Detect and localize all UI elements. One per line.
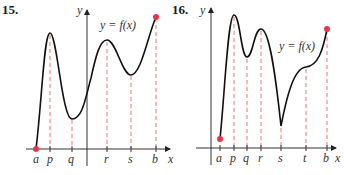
tick-label-t: t — [303, 151, 307, 165]
endpoint-b — [324, 26, 330, 32]
figure-number: 16. — [172, 2, 188, 17]
function-label: y = f(x) — [278, 39, 315, 53]
tick-label-q: q — [68, 152, 74, 166]
function-curve — [220, 15, 327, 139]
tick-label-a: a — [33, 152, 39, 166]
y-axis-label: y — [199, 3, 206, 17]
tick-label-b: b — [323, 151, 329, 165]
tick-label-p: p — [46, 152, 53, 166]
figure-15: 15. y y = f(x) a p q r — [2, 2, 174, 166]
function-curve — [36, 17, 156, 149]
figure-number: 15. — [2, 2, 18, 17]
function-label: y = f(x) — [99, 18, 136, 32]
tick-label-r: r — [258, 151, 263, 165]
tick-label-a: a — [216, 151, 222, 165]
x-axis-label: x — [167, 152, 174, 166]
tick-label-s: s — [128, 152, 133, 166]
tick-label-s: s — [278, 151, 283, 165]
y-axis-label: y — [76, 3, 83, 17]
endpoint-b — [153, 14, 159, 20]
tick-label-b: b — [152, 152, 158, 166]
tick-label-q: q — [243, 151, 249, 165]
tick-label-p: p — [229, 151, 236, 165]
tick-label-r: r — [104, 152, 109, 166]
figure-16: 16. y y = f(x) — [172, 2, 341, 165]
guide-lines — [234, 17, 327, 148]
endpoint-a — [217, 136, 223, 142]
guide-lines — [50, 18, 156, 149]
x-axis-label: x — [334, 151, 341, 165]
